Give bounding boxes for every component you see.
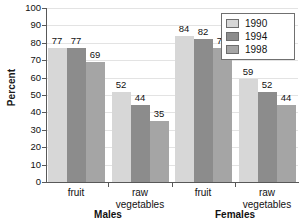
- y-tick-label: 60: [14, 72, 41, 83]
- bar-value-label: 44: [127, 93, 154, 103]
- bar-value-label: 44: [273, 93, 300, 103]
- y-tick-mark: [42, 130, 47, 131]
- x-axis-line: [46, 182, 299, 183]
- y-tick-label: 80: [14, 37, 41, 48]
- bar: [194, 39, 213, 182]
- y-tick-label: 50: [14, 89, 41, 100]
- y-tick-mark: [42, 147, 47, 148]
- y-tick-label: 10: [14, 159, 41, 170]
- y-tick-mark: [42, 25, 47, 26]
- bar: [258, 92, 277, 182]
- bar-value-label: 69: [82, 50, 109, 60]
- bar-chart: Percent 1009080706050403020100 777769524…: [0, 0, 305, 224]
- y-tick-label: 0: [14, 176, 41, 187]
- y-tick-label: 40: [14, 106, 41, 117]
- bar: [48, 48, 67, 182]
- legend-swatch-icon: [226, 32, 239, 41]
- legend-swatch-icon: [226, 45, 239, 54]
- y-tick-mark: [42, 8, 47, 9]
- group-label-females: Females: [190, 209, 280, 220]
- bar: [239, 79, 258, 182]
- bar-value-label: 77: [63, 36, 90, 46]
- y-tick-mark: [42, 60, 47, 61]
- bar: [112, 92, 131, 182]
- bar-value-label: 52: [254, 80, 281, 90]
- legend-label: 1994: [245, 31, 267, 42]
- bar: [277, 105, 296, 182]
- category-label: rawvegetables: [227, 187, 305, 210]
- legend-label: 1998: [245, 44, 267, 55]
- y-tick-label: 100: [14, 2, 41, 13]
- y-tick-mark: [42, 78, 47, 79]
- y-tick-label: 90: [14, 19, 41, 30]
- category-label-line: raw: [227, 187, 305, 199]
- y-tick-mark: [42, 95, 47, 96]
- bar-value-label: 52: [108, 80, 135, 90]
- group-label-males: Males: [63, 209, 153, 220]
- bar-value-label: 59: [235, 67, 262, 77]
- y-tick-mark: [42, 112, 47, 113]
- y-tick-mark: [42, 182, 47, 183]
- legend-item-1994: 1994: [226, 30, 290, 43]
- bar: [67, 48, 86, 182]
- y-tick-label: 70: [14, 54, 41, 65]
- gridline: [47, 8, 298, 9]
- y-tick-label: 30: [14, 124, 41, 135]
- legend-item-1998: 1998: [226, 43, 290, 56]
- bar: [86, 62, 105, 182]
- legend-item-1990: 1990: [226, 17, 290, 30]
- y-tick-mark: [42, 165, 47, 166]
- bar: [175, 36, 194, 182]
- legend-label: 1990: [245, 18, 267, 29]
- legend: 199019941998: [221, 13, 295, 60]
- y-tick-label: 20: [14, 141, 41, 152]
- bar: [213, 48, 232, 182]
- bar-value-label: 35: [146, 109, 173, 119]
- legend-swatch-icon: [226, 19, 239, 28]
- bar: [150, 121, 169, 182]
